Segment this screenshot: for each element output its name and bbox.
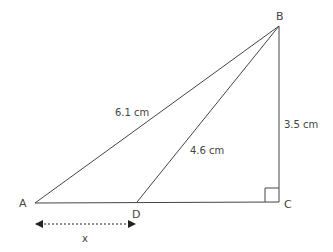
- point-label-A: A: [19, 197, 27, 210]
- right-angle-marker: [265, 188, 279, 202]
- length-label-BD: 4.6 cm: [190, 145, 224, 156]
- side-AC: [35, 202, 279, 203]
- point-label-C: C: [284, 198, 292, 211]
- length-label-x: x: [82, 233, 88, 244]
- point-label-B: B: [276, 10, 284, 23]
- point-label-D: D: [132, 208, 140, 221]
- length-label-AB: 6.1 cm: [115, 107, 149, 118]
- triangle-diagram: B A C D 6.1 cm 4.6 cm 3.5 cm x: [0, 0, 333, 252]
- length-label-BC: 3.5 cm: [284, 119, 318, 130]
